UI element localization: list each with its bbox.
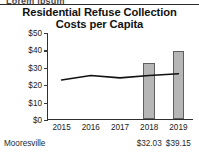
x-axis-label: 2015 (52, 123, 70, 132)
y-axis-label: $0 (33, 116, 42, 125)
x-axis-label: 2019 (169, 123, 187, 132)
y-axis-label: $20 (28, 81, 42, 90)
y-axis-label: $40 (28, 46, 42, 55)
y-axis-label: $50 (28, 29, 42, 38)
x-axis-label: 2017 (111, 123, 129, 132)
line-series (47, 33, 193, 120)
x-axis-label: 2016 (82, 123, 100, 132)
x-axis-label: 2018 (140, 123, 158, 132)
footer-value: $32.03 (137, 139, 162, 148)
plot-area: $0$10$20$30$40$50 20152016201720182019 (47, 33, 193, 120)
chart-title: Residential Refuse Collection Costs per … (0, 6, 199, 30)
chart-figure: Residential Refuse Collection Costs per … (0, 0, 199, 153)
y-axis-label: $30 (28, 63, 42, 72)
footer-row-label: Mooresville (4, 139, 45, 148)
y-axis-tick (44, 120, 48, 121)
y-axis-label: $10 (28, 98, 42, 107)
chart-title-line-1: Residential Refuse Collection (22, 6, 176, 18)
footer-data-row: Mooresville $32.03$39.15 (0, 138, 199, 153)
footer-value: $39.15 (166, 139, 191, 148)
line-series-path (62, 74, 179, 80)
